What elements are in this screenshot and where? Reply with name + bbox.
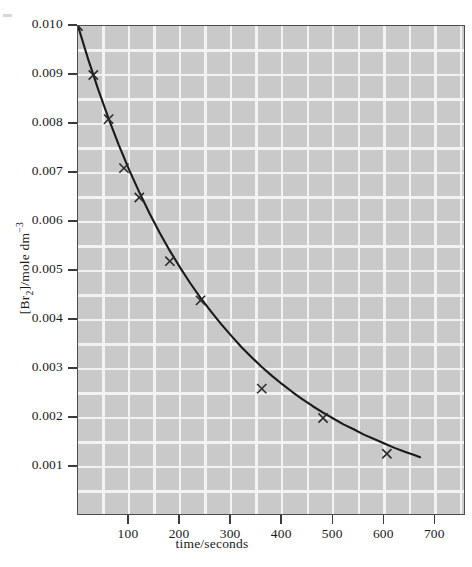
data-point-markers: [78, 26, 391, 458]
y-axis-tick-label: 0.008: [0, 114, 63, 130]
data-point-marker-x: [318, 413, 327, 422]
x-axis-title: time/seconds: [0, 536, 472, 552]
x-axis-tick-mark: [332, 515, 334, 524]
x-axis-tick-mark: [178, 515, 180, 524]
y-axis-tick-mark: [68, 220, 77, 222]
fitted-curve-path: [78, 26, 420, 457]
data-curve-and-markers: [78, 26, 465, 515]
y-axis-title-text: [Br2]/mole dm−3: [16, 222, 31, 314]
data-point-marker-x: [382, 449, 391, 458]
y-axis-tick-mark: [68, 465, 77, 467]
y-axis-tick-mark: [68, 122, 77, 124]
y-axis-tick-mark: [68, 416, 77, 418]
y-axis-tick-label: 0.009: [0, 65, 63, 81]
y-axis-tick-mark: [68, 171, 77, 173]
x-axis-tick-mark: [280, 515, 282, 524]
y-axis-tick-mark: [68, 24, 77, 26]
y-axis-title: [Br2]/mole dm−3: [14, 148, 34, 388]
data-point-marker-x: [119, 164, 128, 173]
chart-figure: 0.0010.0020.0030.0040.0050.0060.0070.008…: [0, 0, 472, 567]
data-point-marker-x: [165, 257, 174, 266]
y-axis-tick-mark: [68, 318, 77, 320]
y-axis-tick-label: 0.001: [0, 457, 63, 473]
y-axis-tick-label: 0.002: [0, 408, 63, 424]
plot-area: [77, 25, 465, 515]
x-axis-title-text: time/seconds: [176, 536, 249, 551]
data-point-marker-x: [257, 384, 266, 393]
y-axis-tick-mark: [68, 367, 77, 369]
y-axis-tick-label: 0.010: [0, 16, 63, 32]
x-axis-tick-mark: [229, 515, 231, 524]
x-axis-tick-mark: [127, 515, 129, 524]
y-axis-tick-mark: [68, 73, 77, 75]
x-axis-tick-mark: [434, 515, 436, 524]
x-axis-tick-mark: [383, 515, 385, 524]
y-axis-tick-mark: [68, 269, 77, 271]
